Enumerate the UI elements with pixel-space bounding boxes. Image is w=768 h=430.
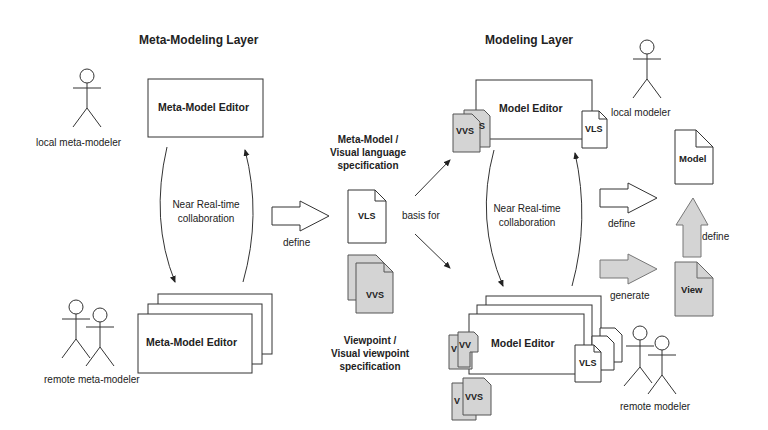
define-label-middle: define — [283, 237, 310, 248]
vvs-title-line-1: Viewpoint / — [320, 335, 420, 346]
local-modeler-actor-icon — [633, 40, 661, 98]
basis-for-label: basis for — [402, 210, 440, 221]
model-editor-stack-vls-label: VLS — [579, 358, 597, 368]
remote-modeler-label: remote modeler — [620, 401, 690, 412]
model-editor-top-vls-label: VLS — [585, 124, 603, 134]
define-block-arrow-icon — [272, 201, 329, 231]
meta-model-editor-stack — [138, 294, 272, 373]
model-doc-label: Model — [679, 153, 706, 164]
local-meta-modeler-label: local meta-modeler — [36, 137, 121, 148]
model-editor-top-vvs-label: VVS — [456, 126, 474, 136]
model-editor-top-vvs-back-label: S — [479, 121, 485, 131]
modeling-layer-title: Modeling Layer — [485, 33, 573, 47]
vvs-title-line-3: specification — [320, 361, 420, 372]
model-editor-stack-vvs-back-v: V — [451, 344, 457, 354]
model-collab-up-arrow — [572, 153, 582, 286]
model-collab-label-2: collaboration — [487, 217, 567, 228]
vls-title-line-3: specification — [318, 160, 418, 171]
remote-modeler-actor-icon — [624, 326, 676, 394]
model-editor-stack-vvs-back-v2: V — [454, 396, 460, 406]
vvs-document-stack-icon — [348, 255, 393, 313]
meta-model-editor-top-label: Meta-Model Editor — [158, 101, 249, 113]
view-doc-label: View — [681, 284, 702, 295]
local-meta-modeler-actor-icon — [73, 69, 101, 127]
meta-model-editor-bottom-label: Meta-Model Editor — [146, 336, 237, 348]
vvs-doc-label: VVS — [366, 290, 384, 300]
model-editor-stack-vvs-label: VVS — [465, 392, 483, 402]
model-editor-bottom-label: Model Editor — [491, 337, 555, 349]
basis-for-up-arrow — [415, 160, 450, 196]
vvs-title-line-2: Visual viewpoint — [320, 348, 420, 359]
model-collab-label-1: Near Real-time — [487, 203, 567, 214]
generate-label: generate — [610, 290, 649, 301]
define-model-block-arrow-icon — [600, 183, 657, 213]
vls-title-line-2: Visual language — [318, 147, 418, 158]
vls-doc-label: VLS — [358, 211, 376, 221]
generate-block-arrow-icon — [600, 254, 657, 284]
basis-for-down-arrow — [415, 234, 450, 268]
define-up-block-arrow-icon — [676, 198, 708, 257]
meta-modeling-layer-title: Meta-Modeling Layer — [139, 33, 258, 47]
define-up-label: define — [702, 231, 729, 242]
meta-collab-label-2: collaboration — [166, 213, 246, 224]
model-editor-top-label: Model Editor — [499, 102, 563, 114]
remote-meta-modeler-label: remote meta-modeler — [44, 374, 140, 385]
remote-meta-modeler-actor-icon — [62, 300, 114, 366]
model-editor-stack-vvs-back-vv: VV — [459, 340, 471, 350]
define-model-label: define — [608, 218, 635, 229]
local-modeler-label: local modeler — [611, 107, 670, 118]
meta-collab-label-1: Near Real-time — [166, 199, 246, 210]
vls-title-line-1: Meta-Model / — [318, 134, 418, 145]
